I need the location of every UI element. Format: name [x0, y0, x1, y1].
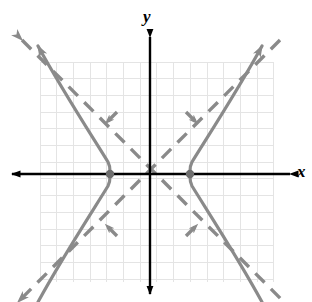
- hyperbola-figure: [0, 0, 312, 302]
- y-axis-label: y: [143, 8, 151, 25]
- x-axis-label: x: [297, 163, 306, 180]
- direction-marker-quadrant-3: [108, 227, 117, 236]
- vertex-left: [106, 170, 114, 178]
- direction-marker-quadrant-2: [108, 112, 117, 121]
- graph-canvas: y x: [0, 0, 312, 302]
- vertex-right: [186, 170, 194, 178]
